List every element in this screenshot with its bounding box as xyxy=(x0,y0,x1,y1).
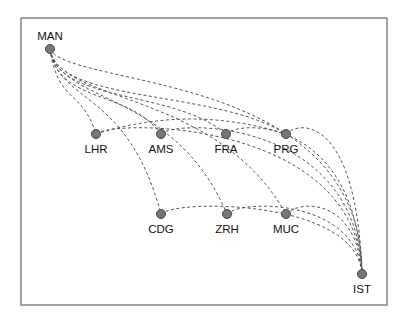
node-label: FRA xyxy=(215,143,238,155)
node-marker[interactable] xyxy=(46,45,55,54)
node-label: AMS xyxy=(149,143,174,155)
node-marker[interactable] xyxy=(157,130,166,139)
node-marker[interactable] xyxy=(157,210,166,219)
route-diagram: MANLHRAMSFRAPRGCDGZRHMUCIST xyxy=(0,0,406,315)
node-label: MUC xyxy=(273,223,299,235)
node-label: LHR xyxy=(84,143,107,155)
diagram-frame xyxy=(21,18,387,305)
node-label: ZRH xyxy=(215,223,239,235)
node-label: CDG xyxy=(148,223,174,235)
node-label: IST xyxy=(353,283,371,295)
node-marker[interactable] xyxy=(282,210,291,219)
node-label: PRG xyxy=(274,143,299,155)
node-marker[interactable] xyxy=(358,270,367,279)
node-marker[interactable] xyxy=(92,130,101,139)
node-marker[interactable] xyxy=(282,130,291,139)
node-marker[interactable] xyxy=(223,210,232,219)
node-label: MAN xyxy=(37,30,63,42)
node-marker[interactable] xyxy=(222,130,231,139)
